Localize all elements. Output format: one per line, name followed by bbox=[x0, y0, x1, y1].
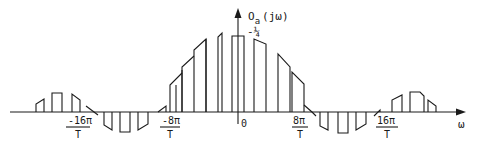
spectrum-diagram: Oa(jω) -¼ 0 ω -16π T -8π T 8π T 16π T bbox=[0, 0, 482, 150]
tick-pos-8pi: 8π T bbox=[292, 115, 308, 140]
side-lobe-right bbox=[392, 92, 436, 112]
origin-label: 0 bbox=[241, 118, 247, 129]
y-axis-arrow-icon bbox=[235, 8, 242, 18]
negative-lobe-right bbox=[320, 112, 366, 133]
x-axis-label: ω bbox=[458, 118, 465, 131]
svg-text:T: T bbox=[167, 129, 173, 140]
tick-pos-16pi: 16π T bbox=[376, 115, 398, 140]
svg-text:T: T bbox=[75, 129, 81, 140]
svg-text:T: T bbox=[297, 129, 303, 140]
peak-label: -¼ bbox=[247, 25, 260, 38]
svg-text:16π: 16π bbox=[377, 115, 395, 126]
svg-text:8π: 8π bbox=[293, 115, 305, 126]
svg-text:T: T bbox=[384, 129, 390, 140]
side-lobe-left bbox=[36, 93, 80, 112]
x-axis-arrow-icon bbox=[456, 109, 466, 116]
tick-neg-8pi: -8π T bbox=[160, 115, 180, 140]
y-axis-label: Oa(jω) bbox=[248, 10, 289, 26]
tick-neg-16pi: -16π T bbox=[66, 115, 92, 140]
svg-text:-8π: -8π bbox=[162, 115, 180, 126]
svg-text:-16π: -16π bbox=[68, 115, 92, 126]
negative-lobe-left bbox=[104, 112, 148, 132]
main-lobe bbox=[170, 33, 304, 112]
